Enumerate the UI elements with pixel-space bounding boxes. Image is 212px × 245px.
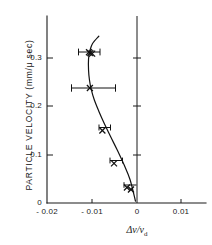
y-axis-ticks	[47, 58, 53, 155]
marker-x	[111, 160, 117, 166]
data-point-group-4	[110, 158, 123, 167]
data-point-group-5	[124, 182, 137, 192]
x-tick-label-0: 0	[135, 208, 140, 216]
y-axis-title: PARTICLE VELOCITY (mm/μ sec)	[24, 30, 34, 200]
data-point-group-2	[72, 84, 116, 91]
x-tick-label-0.01: 0.01	[173, 208, 189, 216]
x-tick-label--0.02: - 0.02	[36, 208, 58, 216]
chart-curve	[88, 36, 135, 201]
x-tick-label--0.01: - 0.01	[81, 208, 103, 216]
particle-velocity-chart: 0 0.1 0.2 0.3 - 0.02 - 0.01 0 0.01 PARTI…	[0, 0, 212, 245]
y-tick-label-0: 0	[20, 199, 42, 207]
x-axis-title-main: Δν/ν	[126, 224, 144, 235]
x-axis-title: Δν/νd	[126, 224, 147, 238]
marker-x	[99, 128, 105, 134]
x-axis-title-subscript: d	[144, 230, 148, 238]
